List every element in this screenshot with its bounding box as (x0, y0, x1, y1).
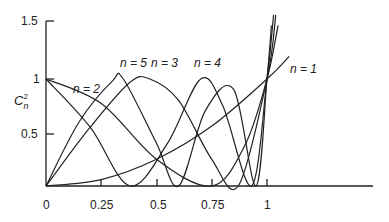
chart-canvas (0, 0, 389, 222)
label-n1: n = 1 (290, 62, 317, 76)
label-n4: n = 4 (194, 56, 221, 70)
y-tick-label-1.5: 1.5 (21, 14, 38, 28)
label-n3: n = 3 (151, 56, 178, 70)
y-axis-label: Cn2 (14, 93, 33, 108)
x-tick-label-0: 0 (43, 198, 50, 212)
x-tick-label-0.5: 0.5 (150, 198, 167, 212)
curves (46, 15, 289, 190)
curve-n4 (46, 15, 274, 186)
y-tick-label-0.5: 0.5 (21, 127, 38, 141)
label-n5: n = 5 (120, 56, 147, 70)
y-tick-label-1: 1 (33, 72, 40, 86)
x-tick-label-0.75: 0.75 (201, 198, 224, 212)
curve-n2 (46, 26, 278, 187)
label-n2: n = 2 (73, 82, 100, 96)
x-tick-label-0.25: 0.25 (90, 198, 113, 212)
curve-n5 (46, 26, 271, 187)
x-tick-label-1: 1 (264, 198, 271, 212)
